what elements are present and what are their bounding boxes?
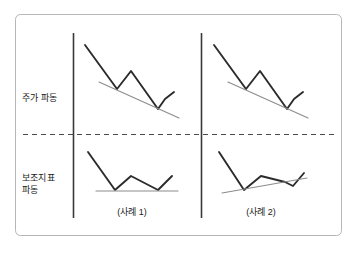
figure-container: 주가 파동 보조지표 파동 (사례 1) (사례 2) <box>0 0 356 255</box>
diagram-canvas <box>0 0 356 255</box>
case-label-2: (사례 2) <box>226 205 296 218</box>
row-label-price-wave: 주가 파동 <box>22 92 70 104</box>
figure-border <box>16 15 342 236</box>
row-label-indicator-wave: 보조지표 파동 <box>22 172 70 196</box>
case-label-1: (사례 1) <box>97 205 167 218</box>
